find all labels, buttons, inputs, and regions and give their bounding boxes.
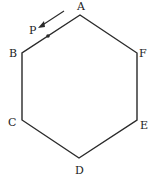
vertex-label-f: F: [139, 47, 147, 60]
point-label-p: P: [29, 24, 37, 37]
vertex-label-e: E: [140, 119, 148, 132]
vertex-label-c: C: [8, 116, 16, 129]
vertex-label-a: A: [76, 0, 86, 13]
hexagon-outline: [22, 15, 137, 158]
hexagon-diagram: A F E D C B P: [0, 0, 152, 177]
point-p: [46, 34, 50, 38]
vertex-label-d: D: [75, 164, 84, 177]
vertex-label-b: B: [9, 47, 17, 60]
arrow-icon: [38, 11, 64, 28]
